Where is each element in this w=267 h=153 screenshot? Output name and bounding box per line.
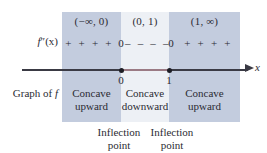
inflection-point-callout-left: Inflection point [89, 126, 149, 152]
second-derivative-primes: ″(x) [41, 35, 58, 47]
inflection-right-line1: Inflection [142, 126, 202, 139]
signs-middle: – – – – [125, 34, 169, 52]
concavity-sign-chart: (−∞, 0) (0, 1) (1, ∞) f″(x) + + + + 0 – … [0, 0, 267, 153]
concavity-left-line1: Concave [62, 87, 121, 100]
concavity-right: Concave upward [169, 87, 240, 113]
graph-of-f-row-label: Graph of f [0, 87, 58, 99]
axis-arrowhead-icon [245, 64, 254, 72]
signs-left: + + + + [62, 34, 117, 52]
concavity-middle-line2: downward [121, 100, 169, 113]
concavity-left: Concave upward [62, 87, 121, 113]
inflection-left-line1: Inflection [89, 126, 149, 139]
axis-tick-label-1: 1 [161, 74, 177, 86]
axis-segment-tint [122, 69, 170, 71]
axis-point-dot-1 [167, 68, 172, 73]
axis-point-dot-0 [119, 68, 124, 73]
interval-heading-left: (−∞, 0) [62, 13, 121, 29]
second-derivative-row-label: f″(x) [0, 35, 58, 47]
concavity-middle: Concave downward [121, 87, 169, 113]
number-line-axis [22, 69, 248, 71]
axis-variable-label: x [255, 61, 260, 73]
axis-tick-label-0: 0 [113, 74, 129, 86]
interval-heading-right: (1, ∞) [169, 13, 240, 29]
concavity-left-line2: upward [62, 100, 121, 113]
interval-heading-middle: (0, 1) [121, 13, 169, 29]
graph-of-f-variable: f [55, 87, 58, 99]
inflection-left-line2: point [89, 139, 149, 152]
graph-of-f-text: Graph of [13, 87, 55, 99]
signs-right: + + + + [177, 34, 240, 52]
sign-row: + + + + 0 – – – – 0 + + + + [62, 34, 240, 52]
concavity-right-line2: upward [169, 100, 240, 113]
zero-mark-at-1: 0 [166, 34, 176, 52]
concavity-middle-line1: Concave [121, 87, 169, 100]
concavity-right-line1: Concave [169, 87, 240, 100]
inflection-point-callout-right: Inflection point [142, 126, 202, 152]
inflection-right-line2: point [142, 139, 202, 152]
